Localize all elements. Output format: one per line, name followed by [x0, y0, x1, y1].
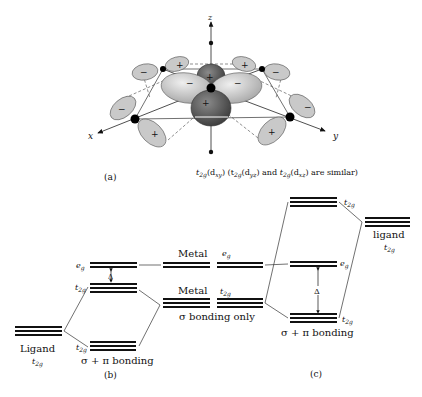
panel-c-label: (c) [310, 369, 322, 379]
ligand-t2g-level-c [365, 218, 410, 226]
metal-levels-middle: Metal eg Metal t2g σ bonding only [163, 248, 263, 322]
eg-symbol-b: eg [76, 261, 85, 272]
eg-symbol-c: eg [340, 259, 349, 270]
ligand-label-c: ligand [373, 229, 405, 240]
svg-text:+: + [206, 72, 214, 82]
ligand-t2g-symbol-c: t2g [384, 243, 395, 254]
metal-atom [207, 84, 216, 93]
t2g-upper-symbol-b: t2g [75, 283, 86, 294]
svg-text:+: + [151, 129, 159, 139]
ligand-atom [160, 66, 166, 72]
svg-text:+: + [202, 98, 210, 108]
orbital-diagram: + − + − + − − + − + − + z x y (a) t2g(dx… [0, 0, 422, 397]
metal-eg-level-left [163, 263, 210, 267]
svg-text:−: − [234, 78, 242, 88]
metal-label-bottom: Metal [178, 285, 207, 296]
svg-text:+: + [268, 127, 276, 137]
panel-b-label: (b) [104, 370, 117, 380]
svg-text:+: + [241, 60, 249, 70]
svg-text:−: − [140, 67, 148, 77]
z-bottom-dot [209, 150, 213, 154]
ligand-t2g-symbol-b: t2g [32, 357, 43, 368]
bonding-label-c: σ + π bonding [281, 327, 354, 338]
svg-text:−: − [304, 102, 312, 112]
ligand-label-b: Ligand [20, 343, 56, 354]
bonding-label-b: σ + π bonding [81, 355, 154, 366]
ligand-atom [131, 115, 140, 124]
svg-text:−: − [118, 104, 126, 114]
energy-diagram-c: t2g ligand t2g eg Δ t2g σ + π bonding (c… [265, 198, 410, 379]
delta-label-b: Δ [108, 273, 113, 281]
ligand-atom [286, 113, 295, 122]
t2g-lower-symbol-b: t2g [76, 343, 87, 354]
sigma-only-label: σ bonding only [179, 311, 255, 322]
d-lobe-front [191, 90, 231, 126]
z-axis-label: z [207, 13, 213, 22]
metal-t2g-level-right [217, 299, 263, 307]
orbital-3d-figure: + − + − + − − + − + − + z x y [88, 13, 339, 154]
panel-a-caption: t2g(dxy) (t2g(dyz) and t2g(dxz) are simi… [196, 168, 358, 179]
svg-text:+: + [176, 60, 184, 70]
y-axis-label: y [332, 131, 339, 141]
metal-t2g-level-left [163, 299, 210, 307]
ligand-t2g-level-b [15, 327, 62, 335]
t2g-lower-level-c [290, 314, 337, 322]
metal-t2g-symbol: t2g [220, 287, 231, 298]
svg-text:−: − [186, 78, 194, 88]
ligand-atom [259, 66, 265, 72]
delta-label-c: Δ [314, 287, 320, 296]
t2g-upper-level-c [290, 198, 337, 206]
energy-diagram-b: Ligand t2g eg t2g Δ t2g σ + π bonding (b… [15, 261, 161, 380]
svg-text:−: − [272, 67, 280, 77]
metal-eg-symbol: eg [222, 249, 231, 260]
metal-eg-level-right [217, 263, 263, 267]
metal-label-top: Metal [178, 248, 207, 259]
t2g-lower-symbol-c: t2g [342, 315, 353, 326]
t2g-upper-level-b [90, 284, 137, 292]
panel-a-label: (a) [104, 172, 116, 182]
x-axis-label: x [88, 131, 93, 141]
eg-level-b [90, 263, 137, 267]
eg-level-c [290, 262, 337, 266]
t2g-lower-level-b [90, 342, 136, 350]
z-top-dot [209, 41, 213, 45]
